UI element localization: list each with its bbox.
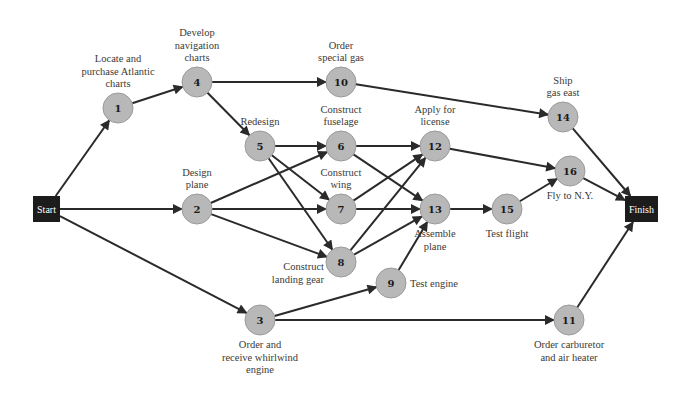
node-number: 12 [428,141,442,152]
activity-node-13: 13 [420,194,450,224]
activity-label-13: Assembleplane [414,228,456,252]
activity-label-7: Constructwing [321,167,362,191]
activity-label-2: Designplane [182,167,212,191]
activity-label-1: Locate andpurchase Atlanticcharts [81,53,155,89]
activity-node-8: 8 [326,247,356,277]
node-number: 5 [257,141,264,152]
activity-label-11: Order carburetorand air heater [534,339,605,363]
activity-node-7: 7 [326,194,356,224]
edge-2-to-8 [211,214,327,257]
node-number: 9 [388,278,395,289]
activity-label-3: Order andreceive whirlwindengine [222,339,299,375]
activity-node-3: 3 [245,305,275,335]
terminal-label: Start [37,204,56,215]
activity-node-4: 4 [182,67,212,97]
edge-4-to-5 [208,93,250,136]
node-number: 2 [194,204,201,215]
activity-node-11: 11 [554,305,584,335]
node-number: 15 [500,204,514,215]
edge-start-to-3 [60,216,247,313]
node-number: 6 [338,141,345,152]
node-number: 16 [563,166,577,177]
activity-label-14: Shipgas east [547,75,580,99]
activity-node-2: 2 [182,194,212,224]
node-number: 1 [115,103,122,114]
activity-label-15: Test flight [486,228,529,239]
activity-node-15: 15 [492,194,522,224]
activity-node-1: 1 [103,93,133,123]
activity-label-4: Developnavigationcharts [175,27,220,63]
activity-label-9: Test engine [410,278,458,289]
node-number: 11 [562,315,576,326]
node-number: 7 [338,204,345,215]
node-number: 14 [556,112,570,123]
node-number: 10 [334,77,348,88]
activity-node-5: 5 [245,131,275,161]
activity-label-16: Fly to N.Y. [547,190,594,201]
activity-node-10: 10 [326,67,356,97]
edge-5-to-7 [272,155,329,200]
edge-3-to-9 [274,287,376,316]
edge-12-to-16 [450,149,556,169]
activity-node-6: 6 [326,131,356,161]
edge-1-to-4 [132,87,183,104]
terminal-start: Start [33,196,60,222]
edge-start-to-1 [56,120,110,196]
terminal-finish: Finish [625,196,658,222]
activity-label-10: Orderspecial gas [318,40,364,64]
node-number: 8 [338,257,345,268]
node-number: 4 [194,77,201,88]
activity-label-5: Redesign [240,116,280,127]
node-number: 3 [257,315,264,326]
activity-node-16: 16 [555,156,585,186]
activity-label-12: Apply forlicense [414,104,456,128]
activity-label-6: Constructfuselage [321,104,362,128]
activity-node-12: 12 [420,131,450,161]
edge-11-to-finish [577,222,633,307]
network-diagram: StartFinish12345678910111213141516 Locat… [0,0,692,402]
terminal-label: Finish [629,204,654,215]
activity-node-9: 9 [376,268,406,298]
node-number: 13 [428,204,442,215]
activity-node-14: 14 [548,102,578,132]
activity-label-8: Constructlanding gear [272,261,325,285]
